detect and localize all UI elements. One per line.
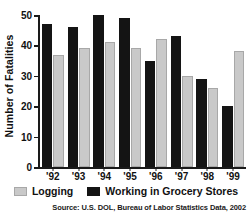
bar[interactable]	[105, 42, 116, 167]
y-tick-mark	[34, 76, 38, 78]
chart-legend: Logging Working in Grocery Stores	[0, 185, 252, 197]
bar[interactable]	[53, 55, 64, 167]
bar-group: '94	[92, 15, 118, 167]
bar[interactable]	[182, 76, 193, 167]
legend-item-grocery-stores[interactable]: Working in Grocery Stores	[87, 185, 238, 197]
chart-figure: Number of Fatalities 01020304050 '92'93'…	[0, 0, 252, 219]
x-tick-label: '98	[195, 171, 221, 182]
y-tick-mark	[34, 15, 38, 17]
bar-group: '93	[66, 15, 92, 167]
legend-label-grocery-stores: Working in Grocery Stores	[105, 185, 238, 197]
x-tick-label: '99	[220, 171, 246, 182]
bar[interactable]	[93, 15, 104, 167]
bar[interactable]	[119, 18, 130, 167]
bar-group: '92	[40, 15, 66, 167]
x-tick-label: '93	[66, 171, 92, 182]
bar[interactable]	[131, 48, 142, 167]
bar[interactable]	[222, 106, 233, 167]
legend-swatch-grocery-stores	[87, 187, 100, 196]
y-tick-mark	[34, 137, 38, 139]
x-tick-label: '96	[143, 171, 169, 182]
bar[interactable]	[156, 39, 167, 167]
bar[interactable]	[68, 27, 79, 167]
bar[interactable]	[145, 61, 156, 167]
bar[interactable]	[42, 24, 53, 167]
x-tick-label: '95	[117, 171, 143, 182]
x-axis-line	[38, 167, 246, 169]
x-tick-label: '92	[40, 171, 66, 182]
y-tick-mark	[34, 106, 38, 108]
y-axis-title: Number of Fatalities	[0, 0, 18, 172]
legend-item-logging[interactable]: Logging	[14, 185, 73, 197]
source-note: Source: U.S. DOL, Bureau of Labor Statis…	[0, 203, 246, 212]
legend-swatch-logging	[14, 187, 27, 196]
bar[interactable]	[79, 48, 90, 167]
bar-group: '97	[169, 15, 195, 167]
y-tick-label: 20	[21, 101, 32, 112]
y-tick-mark	[34, 45, 38, 47]
y-tick-label: 50	[21, 10, 32, 21]
bar[interactable]	[234, 51, 245, 167]
bar-group: '99	[220, 15, 246, 167]
y-tick-label: 40	[21, 40, 32, 51]
legend-label-logging: Logging	[32, 185, 73, 197]
y-tick-mark	[34, 167, 38, 169]
y-tick-label: 30	[21, 70, 32, 81]
y-tick-label: 10	[21, 131, 32, 142]
y-tick-label: 0	[26, 162, 32, 173]
bar[interactable]	[196, 79, 207, 167]
bar[interactable]	[171, 36, 182, 167]
x-tick-label: '94	[92, 171, 118, 182]
x-tick-label: '97	[169, 171, 195, 182]
bar-group: '95	[117, 15, 143, 167]
y-axis-title-text: Number of Fatalities	[3, 35, 15, 138]
plot-area: 01020304050 '92'93'94'95'96'97'98'99	[38, 15, 246, 167]
bar-group: '96	[143, 15, 169, 167]
bar[interactable]	[208, 88, 219, 167]
bar-groups: '92'93'94'95'96'97'98'99	[40, 15, 246, 167]
bar-group: '98	[195, 15, 221, 167]
